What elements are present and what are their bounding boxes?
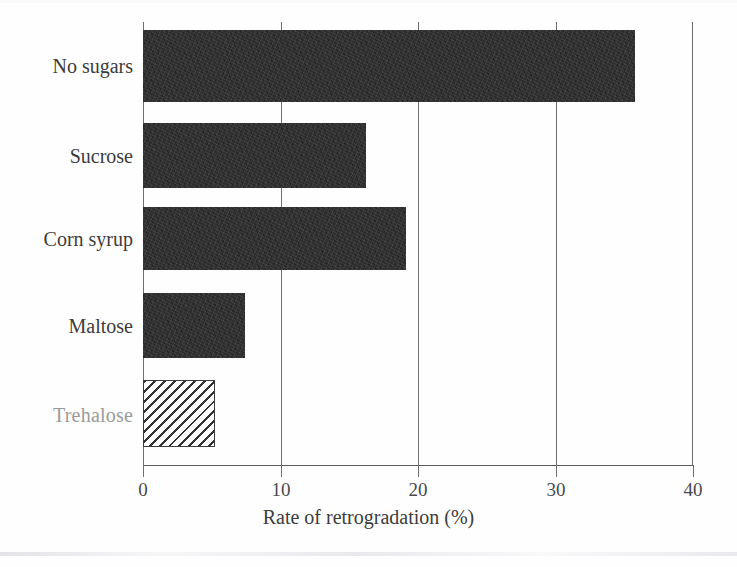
bar-row-trehalose [143, 380, 693, 447]
x-tick-10 [281, 465, 282, 477]
x-tick-label-20: 20 [409, 479, 428, 501]
x-tick-label-10: 10 [272, 479, 291, 501]
category-label-sucrose: Sucrose [70, 144, 133, 168]
bar-sucrose[interactable] [143, 123, 366, 188]
bar-chart-figure: No sugars Sucrose Corn syrup Maltose Tre… [0, 0, 737, 567]
x-tick-0 [143, 465, 144, 477]
x-tick-label-30: 30 [547, 479, 566, 501]
x-tick-20 [418, 465, 419, 477]
scan-artifact-bottom [0, 552, 737, 556]
x-tick-label-40: 40 [684, 479, 703, 501]
bar-row-sucrose [143, 123, 693, 188]
category-label-no-sugars: No sugars [52, 54, 133, 78]
x-tick-label-0: 0 [138, 479, 148, 501]
bar-corn-syrup[interactable] [143, 207, 406, 270]
category-axis-labels: No sugars Sucrose Corn syrup Maltose Tre… [0, 0, 133, 567]
bar-trehalose[interactable] [143, 380, 215, 447]
bar-row-no-sugars [143, 30, 693, 102]
x-tick-40 [693, 465, 694, 477]
bar-maltose[interactable] [143, 293, 245, 358]
x-tick-30 [556, 465, 557, 477]
x-axis-title: Rate of retrogradation (%) [0, 505, 737, 529]
bar-row-corn-syrup [143, 207, 693, 270]
category-label-corn-syrup: Corn syrup [44, 227, 133, 251]
plot-area [143, 22, 693, 465]
category-label-maltose: Maltose [69, 314, 133, 338]
bar-row-maltose [143, 293, 693, 358]
category-label-trehalose: Trehalose [53, 403, 133, 427]
bar-no-sugars[interactable] [143, 30, 635, 102]
